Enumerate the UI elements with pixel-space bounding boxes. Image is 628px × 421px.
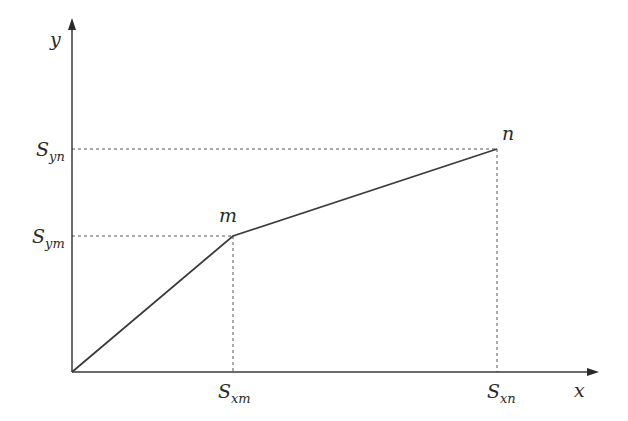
x-tick-sxn-main: S bbox=[487, 380, 500, 402]
x-tick-sxn: Sxn bbox=[487, 380, 516, 406]
point-m-label: m bbox=[219, 204, 237, 226]
point-n-label: n bbox=[502, 122, 514, 144]
y-tick-sym-main: S bbox=[32, 225, 45, 247]
y-tick-syn-main: S bbox=[36, 138, 49, 160]
y-tick-sym-sub: ym bbox=[44, 236, 65, 251]
y-tick-syn-sub: yn bbox=[48, 149, 65, 164]
x-tick-sxm-main: S bbox=[218, 380, 231, 402]
y-axis-arrow-icon bbox=[68, 18, 76, 30]
y-axis-label: y bbox=[49, 28, 61, 50]
y-tick-syn: Syn bbox=[36, 138, 65, 164]
diagram-canvas: y x m n Syn Sym Sxm Sxn bbox=[0, 0, 628, 421]
guide-lines bbox=[72, 149, 497, 372]
x-tick-sxn-sub: xn bbox=[500, 391, 516, 406]
x-tick-sxm-sub: xm bbox=[231, 391, 251, 406]
y-tick-sym: Sym bbox=[32, 225, 65, 251]
axes bbox=[72, 26, 591, 372]
x-axis-arrow-icon bbox=[587, 368, 599, 376]
curve-line bbox=[72, 149, 497, 372]
x-tick-sxm: Sxm bbox=[218, 380, 251, 406]
x-axis-label: x bbox=[574, 379, 585, 401]
